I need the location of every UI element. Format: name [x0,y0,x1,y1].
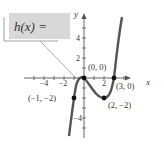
y-axis-arrow-icon [82,13,87,19]
point-origin [82,76,87,81]
point-3-0 [112,76,117,81]
label-2-neg2: (2, −2) [108,100,131,110]
x-axis-label: x [145,77,150,87]
y-axis-label: y [73,9,78,19]
point-neg1-neg2 [72,96,77,101]
point-2-neg2 [102,96,107,101]
label-origin: (0, 0) [88,62,107,72]
label-neg1-neg2: (−1, −2) [28,93,56,103]
tick-x-2: 2 [102,79,106,88]
tick-y-4: 4 [76,34,80,43]
tick-x-neg4: −4 [40,79,49,88]
callout-frame [4,17,58,41]
tick-x-neg2: −2 [59,79,68,88]
graph: −4 −2 2 4 2 −4 x y (0, 0) (3, 0) (2, −2)… [0,0,164,144]
tick-y-2: 2 [76,54,80,63]
tick-y-neg4: −4 [73,114,82,123]
callout-pointer [40,41,76,78]
x-axis-arrow-icon [125,76,131,81]
label-3-0: (3, 0) [116,81,135,91]
